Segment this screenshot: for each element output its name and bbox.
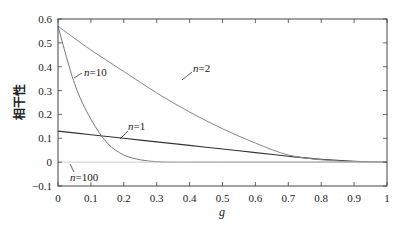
y-tick-label: 0.1 — [38, 132, 52, 144]
x-tick-label: 0.4 — [183, 192, 197, 204]
x-tick-label: 0.3 — [150, 192, 164, 204]
series-line-n1 — [58, 131, 387, 162]
leader-n10 — [74, 73, 82, 78]
series-line-n2 — [58, 26, 387, 162]
series-group — [58, 26, 387, 162]
x-tick-label: 0.7 — [281, 192, 295, 204]
series-line-n10 — [58, 26, 387, 162]
y-tick-label: 0.4 — [38, 61, 52, 73]
y-tick-label: 0.6 — [38, 13, 52, 25]
x-tick-label: 0.6 — [249, 192, 263, 204]
x-tick-label: 0.5 — [216, 192, 230, 204]
coherence-chart: 00.10.20.30.40.50.60.70.80.91−0.100.10.2… — [0, 0, 411, 229]
x-tick-label: 0.2 — [117, 192, 131, 204]
y-tick-label: 0 — [47, 156, 53, 168]
label-n1: n=1 — [128, 120, 145, 132]
x-tick-label: 0.9 — [347, 192, 361, 204]
y-tick-label: 0.2 — [38, 108, 52, 120]
y-tick-label: 0.3 — [38, 85, 52, 97]
y-tick-label: −0.1 — [32, 180, 52, 192]
label-n2: n=2 — [193, 62, 210, 74]
x-tick-label: 0.1 — [84, 192, 98, 204]
x-tick-label: 0 — [55, 192, 61, 204]
leader-n2 — [182, 72, 192, 80]
x-tick-label: 1 — [384, 192, 390, 204]
label-n100: n=100 — [70, 171, 99, 183]
x-axis-title: g — [219, 205, 225, 219]
y-axis-title: 相干性 — [12, 84, 27, 120]
y-tick-label: 0.5 — [38, 37, 52, 49]
label-n10: n=10 — [84, 66, 107, 78]
x-tick-label: 0.8 — [314, 192, 328, 204]
